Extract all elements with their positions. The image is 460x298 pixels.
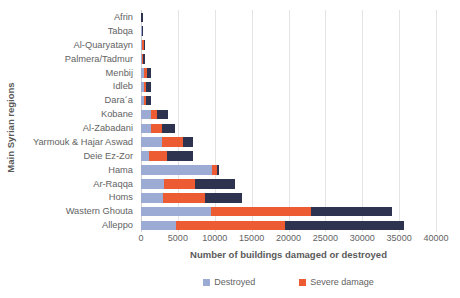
stacked-bar[interactable] [141, 137, 193, 147]
bar-segment[interactable] [143, 54, 145, 64]
bar-row [141, 79, 436, 94]
bar-row [141, 121, 436, 136]
bar-segment[interactable] [141, 207, 211, 217]
bar-row [141, 177, 436, 192]
bar-row [141, 38, 436, 53]
stacked-bar[interactable] [141, 151, 193, 161]
stacked-bar[interactable] [141, 221, 404, 231]
bar-row [141, 163, 436, 178]
y-axis-category-labels: AfrinTabqaAl-QuaryataynPalmera/TadmurMen… [18, 10, 137, 232]
bar-segment[interactable] [151, 124, 162, 134]
y-axis-category-label: Tabqa [108, 24, 133, 39]
y-axis-title: Main Syrian regions [2, 52, 18, 202]
bar-segment[interactable] [195, 179, 235, 189]
x-axis-tick-label: 25000 [313, 233, 338, 243]
bar-segment[interactable] [183, 137, 193, 147]
stacked-bar[interactable] [141, 193, 242, 203]
bar-row [141, 10, 436, 25]
bar-row [141, 93, 436, 108]
y-axis-category-label: Yarmouk & Hajar Aswad [33, 135, 133, 150]
y-axis-category-label: Ar-Raqqa [93, 177, 133, 192]
bar-segment[interactable] [167, 151, 193, 161]
legend-label: Severe damage [310, 277, 374, 287]
bar-row [141, 149, 436, 164]
bar-segment[interactable] [162, 137, 183, 147]
y-axis-category-label: Al-Quaryatayn [74, 38, 133, 53]
y-axis-category-label: Homs [109, 190, 133, 205]
x-axis-tick-label: 35000 [387, 233, 412, 243]
bar-segment[interactable] [205, 193, 242, 203]
x-axis-tick-label: 0 [138, 233, 143, 243]
y-axis-category-label: Idleb [113, 79, 133, 94]
bar-segment[interactable] [311, 207, 392, 217]
x-axis-tick-label: 15000 [239, 233, 264, 243]
y-axis-category-label: Wastern Ghouta [66, 204, 133, 219]
bar-segment[interactable] [162, 124, 175, 134]
bar-segment[interactable] [141, 165, 212, 175]
stacked-bar[interactable] [141, 124, 175, 134]
bar-segment[interactable] [141, 110, 151, 120]
bar-segment[interactable] [147, 68, 151, 78]
y-axis-title-text: Main Syrian regions [5, 82, 16, 172]
chart-legend: DestroyedSevere damage [141, 275, 436, 289]
stacked-bar[interactable] [141, 26, 143, 36]
bar-segment[interactable] [211, 207, 311, 217]
legend-item[interactable]: Severe damage [299, 277, 374, 287]
stacked-bar[interactable] [141, 40, 144, 50]
bar-chart: Main Syrian regions AfrinTabqaAl-Quaryat… [0, 0, 460, 298]
bar-segment[interactable] [141, 13, 142, 23]
bar-segment[interactable] [164, 179, 195, 189]
legend-swatch-icon [299, 279, 306, 286]
plot-area [141, 10, 436, 232]
stacked-bar[interactable] [141, 110, 168, 120]
x-axis-tick-label: 20000 [276, 233, 301, 243]
stacked-bar[interactable] [141, 54, 145, 64]
bar-segment[interactable] [217, 165, 219, 175]
bar-segment[interactable] [141, 193, 163, 203]
legend-item[interactable]: Destroyed [203, 277, 255, 287]
stacked-bar[interactable] [141, 179, 235, 189]
bar-row [141, 204, 436, 219]
y-axis-category-label: Kobane [101, 107, 133, 122]
bar-segment[interactable] [144, 40, 145, 50]
stacked-bar[interactable] [141, 82, 151, 92]
bar-row [141, 135, 436, 150]
bar-segment[interactable] [176, 221, 285, 231]
gridline [436, 10, 437, 232]
bar-row [141, 190, 436, 205]
y-axis-category-label: Alleppo [102, 218, 133, 233]
stacked-bar[interactable] [141, 96, 151, 106]
bar-segment[interactable] [141, 179, 164, 189]
bar-segment[interactable] [141, 124, 151, 134]
bar-segment[interactable] [151, 110, 158, 120]
bar-segment[interactable] [163, 193, 205, 203]
bar-row [141, 107, 436, 122]
x-axis-tick-label: 30000 [350, 233, 375, 243]
bar-row [141, 218, 436, 233]
stacked-bar[interactable] [141, 13, 142, 23]
bar-segment[interactable] [141, 221, 176, 231]
bar-segment[interactable] [141, 151, 149, 161]
bar-segment[interactable] [285, 221, 404, 231]
bar-segment[interactable] [146, 96, 150, 106]
y-axis-category-label: Palmera/Tadmur [65, 52, 133, 67]
bar-segment[interactable] [141, 137, 162, 147]
x-axis-tick-label: 5000 [168, 233, 188, 243]
y-axis-category-label: Hama [108, 163, 133, 178]
bar-segment[interactable] [142, 26, 143, 36]
bar-segment[interactable] [146, 82, 151, 92]
x-axis-tick-label: 40000 [423, 233, 448, 243]
y-axis-category-label: Deie Ez-Zor [83, 149, 133, 164]
x-axis-tick-label: 10000 [202, 233, 227, 243]
x-axis-title: Number of buildings damaged or destroyed [141, 249, 436, 260]
stacked-bar[interactable] [141, 207, 392, 217]
bar-segment[interactable] [149, 151, 167, 161]
bar-row [141, 52, 436, 67]
x-axis-tick-labels: 0500010000150002000025000300003500040000 [141, 233, 436, 247]
bar-segment[interactable] [157, 110, 167, 120]
stacked-bar[interactable] [141, 68, 151, 78]
stacked-bar[interactable] [141, 165, 219, 175]
y-axis-category-label: Menbij [106, 66, 133, 81]
legend-swatch-icon [203, 279, 210, 286]
legend-label: Destroyed [214, 277, 255, 287]
